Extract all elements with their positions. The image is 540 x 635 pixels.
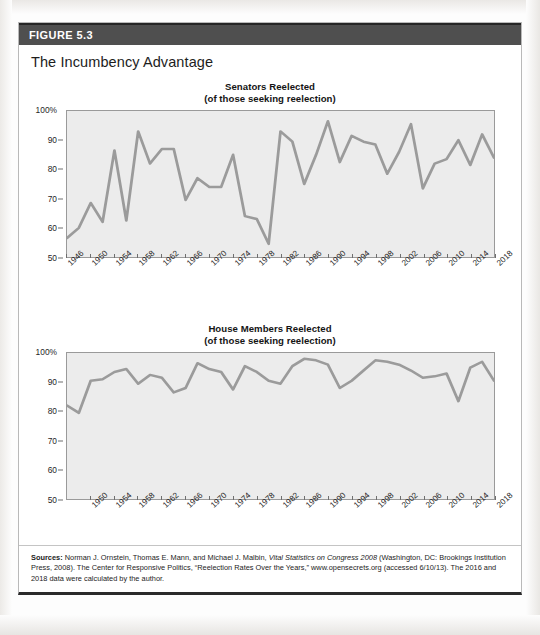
y-tick-label: 50 [48,253,57,263]
page-scan-shadow-top [0,0,540,14]
figure-number-label: FIGURE 5.3 [19,29,93,41]
x-tick-mark [161,254,162,258]
y-tick-label: 70 [48,194,57,204]
y-tick-label: 70 [48,436,57,446]
y-tick-label: 80 [48,406,57,416]
x-tick-mark [376,254,377,258]
y-tick-label: 50 [48,495,57,505]
figure-container: FIGURE 5.3 The Incumbency Advantage Sena… [18,22,522,595]
figure-number-band: FIGURE 5.3 [19,23,521,45]
y-tick-mark [58,381,63,382]
x-tick-mark [328,496,329,500]
y-tick-mark [58,228,63,229]
x-tick-mark [281,254,282,258]
page-scan-shadow-bottom [0,615,540,635]
x-tick-label: 2018 [495,249,515,268]
x-tick-mark [233,496,234,500]
y-tick-mark [58,198,63,199]
chart-subtitle-line2: (of those seeking reelection) [19,93,521,105]
chart-senators-reelected: Senators Reelected (of those seeking ree… [19,81,521,321]
x-tick-mark [185,496,186,500]
x-tick-mark [352,254,353,258]
x-tick-mark [209,254,210,258]
chart-title-senators: Senators Reelected (of those seeking ree… [19,81,521,104]
y-tick-mark [58,470,63,471]
page-scan-shadow-left [0,0,12,635]
y-tick-mark [58,500,63,501]
y-tick-label: 60 [48,465,57,475]
x-tick-mark [424,254,425,258]
line-chart-svg-house [67,353,494,499]
source-title-italic: Vital Statistics on Congress 2008 [269,553,377,562]
y-tick-mark [58,169,63,170]
y-tick-label: 100% [36,105,57,115]
y-tick-mark [58,258,63,259]
y-tick-mark [58,411,63,412]
series-line-house [67,359,494,413]
page-scan-shadow-right [526,0,540,635]
x-tick-mark [495,496,496,500]
scanned-page: FIGURE 5.3 The Incumbency Advantage Sena… [0,0,540,635]
x-tick-mark [66,254,67,258]
source-label: Sources: [31,553,63,562]
x-tick-mark [328,254,329,258]
x-tick-mark [233,254,234,258]
x-tick-mark [257,496,258,500]
x-tick-mark [90,254,91,258]
y-tick-mark [58,139,63,140]
plot-area-senators [66,110,495,258]
y-tick-label: 90 [48,135,57,145]
y-tick-label: 60 [48,223,57,233]
chart-title-line1: House Members Reelected [19,323,521,335]
y-tick-label: 90 [48,377,57,387]
line-chart-svg-senators [67,111,494,257]
x-tick-mark [471,496,472,500]
series-line-senators [67,121,494,244]
x-tick-label: 2018 [495,491,515,510]
x-axis-senators: 1946195019541958196219661970197419781982… [66,258,495,288]
y-axis-house: 5060708090100% [19,352,63,500]
plot-wrapper-senators: 5060708090100% 1946195019541958196219661… [19,110,521,288]
x-tick-mark [281,496,282,500]
x-tick-mark [90,496,91,500]
y-tick-label: 80 [48,164,57,174]
x-tick-mark [352,496,353,500]
x-tick-mark [400,254,401,258]
x-tick-mark [114,496,115,500]
chart-title-line1: Senators Reelected [19,81,521,93]
chart-subtitle-line2: (of those seeking reelection) [19,335,521,347]
y-axis-senators: 5060708090100% [19,110,63,258]
plot-area-house [66,352,495,500]
x-tick-mark [376,496,377,500]
x-tick-mark [304,254,305,258]
source-text-part1: Norman J. Ornstein, Thomas E. Mann, and … [63,553,269,562]
y-tick-mark [58,440,63,441]
x-tick-mark [209,496,210,500]
x-tick-mark [161,496,162,500]
x-axis-house: 1950195419581962196619701974197819821986… [66,500,495,530]
x-tick-mark [495,254,496,258]
figure-source-note: Sources: Norman J. Ornstein, Thomas E. M… [19,545,521,592]
x-tick-mark [114,254,115,258]
x-tick-mark [257,254,258,258]
x-tick-mark [137,496,138,500]
x-tick-mark [304,496,305,500]
x-tick-mark [137,254,138,258]
x-tick-mark [447,496,448,500]
x-tick-mark [400,496,401,500]
chart-house-members-reelected: House Members Reelected (of those seekin… [19,323,521,548]
chart-title-house: House Members Reelected (of those seekin… [19,323,521,346]
plot-wrapper-house: 5060708090100% 1950195419581962196619701… [19,352,521,530]
x-tick-mark [424,496,425,500]
x-tick-mark [471,254,472,258]
y-tick-label: 100% [36,347,57,357]
x-tick-mark [185,254,186,258]
figure-title: The Incumbency Advantage [31,54,213,70]
x-tick-mark [447,254,448,258]
